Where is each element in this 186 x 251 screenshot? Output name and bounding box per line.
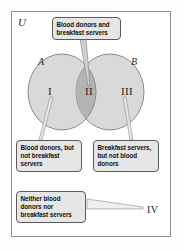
region-label-iii: III — [121, 85, 133, 97]
set-b-label: B — [131, 56, 137, 67]
leader-line-neither — [87, 199, 143, 209]
region-label-i: I — [48, 85, 52, 97]
callout-only-b: Breakfast servers, but not blood donors — [93, 140, 159, 172]
region-label-iv: IV — [147, 204, 158, 215]
venn-diagram-figure: U A B I II III IV Blood donors and break… — [0, 0, 186, 251]
region-label-ii: II — [85, 85, 93, 97]
callout-only-a: Blood donors, but not breakfast servers — [16, 140, 82, 172]
set-a-label: A — [38, 56, 44, 67]
callout-intersection: Blood donors and breakfast servers — [52, 17, 121, 40]
callout-neither: Neither blood donors nor breakfast serve… — [16, 191, 86, 223]
